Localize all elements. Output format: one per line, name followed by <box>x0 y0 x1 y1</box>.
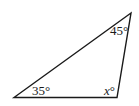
angle-label-bottom-right: x° <box>103 83 115 98</box>
angle-label-top: 45° <box>110 23 128 38</box>
degree-symbol: ° <box>110 83 115 98</box>
angle-label-bottom-left: 35° <box>32 83 50 98</box>
triangle-diagram: 45° 35° x° <box>0 0 139 106</box>
